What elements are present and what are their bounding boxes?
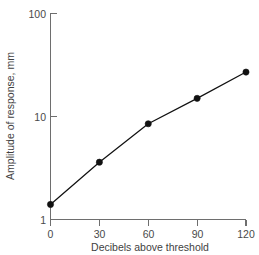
y-axis-title: Amplitude of response, mm (4, 52, 16, 180)
data-point (243, 69, 249, 75)
y-tick-label-10: 10 (34, 111, 46, 123)
x-tick-label-120: 120 (237, 228, 255, 240)
x-tick-label-60: 60 (143, 228, 155, 240)
x-tick-label-30: 30 (94, 228, 106, 240)
x-tick-label-0: 0 (48, 228, 54, 240)
data-point (96, 159, 102, 165)
data-point (47, 201, 53, 207)
data-point (145, 121, 151, 127)
x-axis-title: Decibels above threshold (91, 241, 209, 253)
y-tick-label-100: 100 (28, 8, 46, 20)
y-tick-label-1: 1 (40, 214, 46, 226)
x-tick-label-90: 90 (192, 228, 204, 240)
chart-figure: 100 10 1 0 30 60 90 120 Decibels above t… (0, 0, 259, 255)
chart-background (0, 0, 259, 255)
data-point (194, 95, 200, 101)
